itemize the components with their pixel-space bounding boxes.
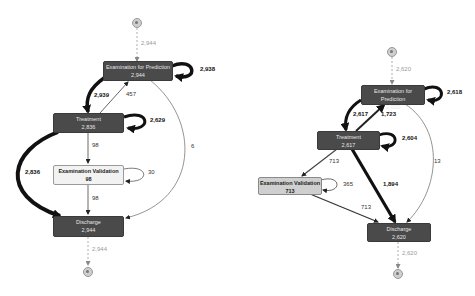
edge-label-treatment-to-exam-validation: 98 [92,142,99,148]
edge-label-treatment-to-exam-prediction: 457 [126,91,136,97]
node-count: 2,944 [104,71,172,79]
edge-label-exam-validation-self: 30 [148,169,155,175]
edge-label-treatment-to-discharge: 1,894 [383,181,398,187]
node-count: 2,836 [54,123,123,131]
node-count: 2,944 [54,226,123,234]
node-label: Discharge [368,225,430,233]
node-treatment[interactable]: Treatment 2,617 [317,131,380,150]
edge-label-treatment-self: 2,629 [150,117,165,123]
node-label: Discharge [54,218,123,226]
node-exam-prediction[interactable]: Examination for Prediction 2,944 [103,61,173,81]
edge-label-exam-prediction-self: 2,618 [447,89,462,95]
node-treatment[interactable]: Treatment 2,836 [53,113,124,133]
node-count: 2,617 [318,141,379,149]
node-exam-validation[interactable]: Examination Validation 713 [258,177,322,195]
end-node-icon[interactable] [393,269,403,279]
node-count: 713 [259,187,321,195]
end-node-icon[interactable] [83,267,93,277]
edge-label-treatment-self: 2,604 [402,135,417,141]
node-count: 2,620 [368,233,430,241]
start-node-icon[interactable] [387,47,397,57]
node-label: Examination for Prediction [104,63,172,71]
node-exam-validation[interactable]: Examination Validation 98 [53,165,124,185]
node-discharge[interactable]: Discharge 2,620 [367,223,431,242]
edge-label-exam-validation-self: 365 [343,181,353,187]
edge-label-start: 2,620 [396,66,411,72]
edge-label-exam-prediction-to-discharge: 6 [191,143,194,149]
node-label: Treatment [318,133,379,141]
node-count: 98 [54,175,123,183]
edge-label-exam-prediction-to-treatment: 2,617 [353,111,368,117]
node-label: Examination Validation [54,167,123,175]
edge-label-exam-prediction-to-discharge: 13 [434,158,441,164]
edge-label-exam-validation-to-discharge: 713 [361,204,371,210]
node-label: Examination for Prediction [362,87,424,103]
edge-label-end: 2,944 [92,246,107,252]
edge-label-exam-validation-to-discharge: 98 [92,195,99,201]
edge-label-treatment-to-discharge: 2,836 [25,169,40,175]
edge-label-start: 2,944 [141,40,156,46]
edge-label-exam-prediction-to-treatment: 2,939 [94,92,109,98]
edge-label-end: 2,620 [402,250,417,256]
edge-label-exam-prediction-self: 2,938 [200,66,215,72]
node-exam-prediction[interactable]: Examination for Prediction 2,620 [361,85,425,105]
edge-label-treatment-to-exam-prediction: 1,723 [381,111,396,117]
start-node-icon[interactable] [132,18,142,28]
node-count: 2,620 [362,103,424,111]
edge-label-treatment-to-exam-validation: 713 [329,158,339,164]
node-discharge[interactable]: Discharge 2,944 [53,216,124,237]
node-label: Examination Validation [259,179,321,187]
node-label: Treatment [54,115,123,123]
